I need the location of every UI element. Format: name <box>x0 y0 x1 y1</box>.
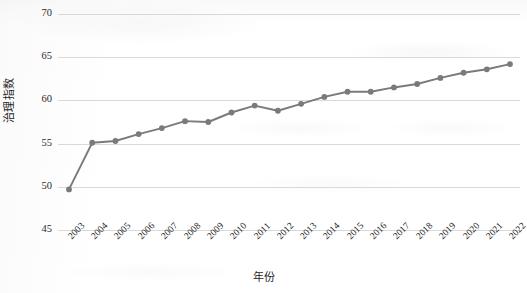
data-point <box>507 61 513 67</box>
data-point <box>89 140 95 146</box>
data-point <box>321 94 327 100</box>
data-point <box>345 89 351 95</box>
data-point <box>437 75 443 81</box>
y-axis-tick-label: 60 <box>26 94 52 105</box>
data-point <box>159 125 165 131</box>
data-point <box>275 108 281 114</box>
data-point <box>229 110 235 116</box>
y-axis-tick-label: 65 <box>26 51 52 62</box>
data-point <box>484 66 490 72</box>
plot-area <box>58 14 520 230</box>
data-point <box>298 101 304 107</box>
line-chart: 治理指数 455055606570 2003200420052006200720… <box>0 0 527 293</box>
data-point <box>205 119 211 125</box>
data-point <box>461 70 467 76</box>
y-axis-title: 治理指数 <box>0 68 16 132</box>
data-point <box>182 118 188 124</box>
data-point <box>414 81 420 87</box>
y-axis-tick-label: 55 <box>26 138 52 149</box>
y-axis-tick-labels: 455055606570 <box>18 14 52 230</box>
data-point <box>391 85 397 91</box>
data-point <box>113 138 119 144</box>
x-axis-title: 年份 <box>0 268 527 284</box>
data-point <box>252 103 258 109</box>
data-point <box>66 186 72 192</box>
data-point <box>136 131 142 137</box>
series-line <box>69 64 510 189</box>
y-axis-tick-label: 70 <box>26 8 52 19</box>
y-axis-tick-label: 50 <box>26 181 52 192</box>
data-point <box>368 89 374 95</box>
series-layer <box>58 14 520 230</box>
y-axis-tick-label: 45 <box>26 224 52 235</box>
